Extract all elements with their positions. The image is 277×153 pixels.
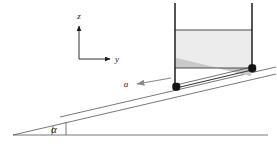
wheel-right [249,65,257,73]
coordinate-axes: z y [76,11,119,64]
incline-wedge: α [13,67,276,135]
tank-floor-line [176,70,252,88]
tank-assembly [173,3,257,91]
acceleration-vector: a [124,78,171,89]
y-axis-label: y [114,54,119,64]
acceleration-label: a [124,79,129,89]
wheel-left [173,83,181,91]
acceleration-arrow-line [137,78,171,84]
physics-diagram-figure: α z y a [0,0,277,153]
angle-label-alpha: α [51,123,57,135]
diagram-canvas: α z y a [0,0,277,153]
incline-upper-edge [60,67,276,117]
z-axis-label: z [76,11,81,21]
